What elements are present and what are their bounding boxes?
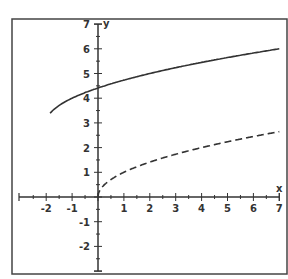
chart: -2-11234567-2-11234567 x y [0,0,288,279]
y-axis-label: y [103,18,110,29]
y-tick-label: 4 [83,93,90,104]
x-tick-label: 1 [120,203,127,214]
x-tick-label: -2 [41,203,52,214]
x-tick-label: 5 [224,203,231,214]
y-tick-label: -2 [79,241,90,252]
plot-frame [12,19,287,274]
x-tick-label: 7 [276,203,283,214]
y-tick-label: 2 [83,143,90,154]
y-tick-label: 1 [83,167,90,178]
y-tick-label: 3 [83,118,90,129]
y-tick-label: 7 [83,19,90,30]
y-tick-label: 6 [83,44,90,55]
x-tick-label: -1 [67,203,78,214]
y-tick-label: 5 [83,69,90,80]
x-tick-label: 3 [172,203,179,214]
x-axis-label: x [276,183,283,194]
x-tick-label: 6 [250,203,257,214]
x-tick-label: 4 [198,203,205,214]
y-tick-label: -1 [79,217,90,228]
x-tick-label: 2 [146,203,153,214]
